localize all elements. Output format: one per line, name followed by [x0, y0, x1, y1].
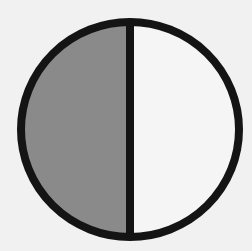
fraction-circle-diagram [0, 0, 252, 251]
diagram-canvas [0, 0, 252, 251]
